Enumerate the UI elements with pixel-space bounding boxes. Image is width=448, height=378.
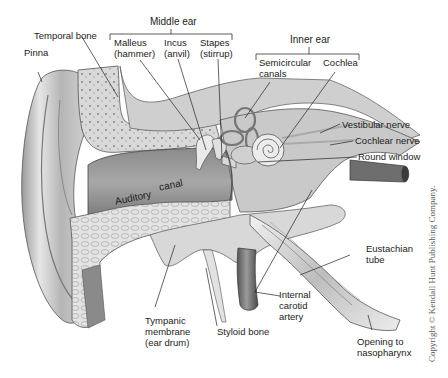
label-stapes-name: Stapes xyxy=(200,37,233,48)
label-cochlea: Cochlea xyxy=(323,57,358,68)
label-eustachian-line1: Eustachian xyxy=(366,243,413,254)
label-eustachian-line2: tube xyxy=(366,254,413,265)
label-internal-carotid-artery: Internal carotid artery xyxy=(279,289,311,322)
label-carotid-line3: artery xyxy=(279,311,311,322)
label-temporal-bone: Temporal bone xyxy=(34,30,97,41)
label-tympanic-line2: membrane xyxy=(145,326,190,337)
label-semicircular-line2: canals xyxy=(259,68,311,79)
label-opening-to-nasopharynx: Opening to nasopharynx xyxy=(357,336,411,358)
label-semicircular-canals: Semicircular canals xyxy=(259,57,311,79)
label-cochlear-nerve: Cochlear nerve xyxy=(355,135,419,146)
label-vestibular-nerve: Vestibular nerve xyxy=(342,119,410,130)
label-stapes: Stapes (stirrup) xyxy=(200,37,233,59)
label-incus: Incus (anvil) xyxy=(164,37,190,59)
label-malleus-alias: (hammer) xyxy=(114,48,155,59)
label-tympanic-line1: Tympanic xyxy=(145,315,190,326)
inner-ear-group-label: Inner ear xyxy=(290,34,330,45)
label-round-window: Round window xyxy=(358,151,420,162)
label-malleus-name: Malleus xyxy=(114,37,155,48)
label-incus-name: Incus xyxy=(164,37,190,48)
label-styloid-bone: Styloid bone xyxy=(217,326,269,337)
label-carotid-line2: carotid xyxy=(279,300,311,311)
label-incus-alias: (anvil) xyxy=(164,48,190,59)
label-tympanic-membrane: Tympanic membrane (ear drum) xyxy=(145,315,190,348)
label-nasopharynx-line2: nasopharynx xyxy=(357,347,411,358)
middle-ear-group-label: Middle ear xyxy=(150,16,197,27)
copyright-notice: Copyright © Kendall Hunt Publishing Comp… xyxy=(427,186,437,362)
label-malleus: Malleus (hammer) xyxy=(114,37,155,59)
label-stapes-alias: (stirrup) xyxy=(200,48,233,59)
label-carotid-line1: Internal xyxy=(279,289,311,300)
label-semicircular-line1: Semicircular xyxy=(259,57,311,68)
internal-carotid-artery-shape xyxy=(237,248,258,310)
eustachian-tube-shape xyxy=(250,215,400,331)
label-tympanic-line3: (ear drum) xyxy=(145,337,190,348)
label-pinna: Pinna xyxy=(24,47,48,58)
label-nasopharynx-line1: Opening to xyxy=(357,336,411,347)
label-eustachian-tube: Eustachian tube xyxy=(366,243,413,265)
